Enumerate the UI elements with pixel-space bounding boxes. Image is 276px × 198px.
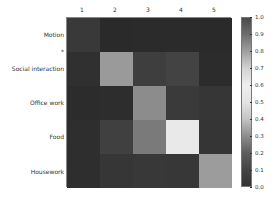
- x-tick-1: 1: [72, 6, 92, 13]
- heatmap-cell: [67, 52, 100, 86]
- heatmap-cell: [100, 52, 133, 86]
- heatmap-cell: [100, 154, 133, 188]
- colorbar-tick-mark: [250, 119, 252, 120]
- colorbar-tick-mark: [250, 187, 252, 188]
- heatmap-cell: [166, 86, 199, 120]
- heatmap-cell: [67, 120, 100, 154]
- colorbar-tick-label: 0.3: [255, 133, 264, 139]
- x-tick-2: 2: [105, 6, 125, 13]
- heatmap-cell: [166, 18, 199, 52]
- colorbar-tick-mark: [250, 170, 252, 171]
- colorbar-tick-label: 0.1: [255, 167, 264, 173]
- heatmap-chart: 1 2 3 4 5 Motion * Social interaction Of…: [0, 0, 276, 198]
- colorbar-tick-mark: [250, 17, 252, 18]
- colorbar-tick-label: 1.0: [255, 14, 264, 20]
- colorbar-tick-label: 0.6: [255, 82, 264, 88]
- heatmap-cell: [199, 86, 232, 120]
- heatmap-cell: [133, 86, 166, 120]
- colorbar-tick-mark: [250, 68, 252, 69]
- heatmap-cell: [67, 18, 100, 52]
- colorbar-tick-label: 0.7: [255, 65, 264, 71]
- y-label-motion: Motion: [44, 31, 64, 38]
- heatmap-cell: [133, 154, 166, 188]
- colorbar-tick-mark: [250, 136, 252, 137]
- colorbar-tick-mark: [250, 51, 252, 52]
- x-tick-3: 3: [138, 6, 158, 13]
- heatmap-cell: [133, 120, 166, 154]
- colorbar-tick-mark: [250, 102, 252, 103]
- colorbar-tick-label: 0.2: [255, 150, 264, 156]
- heatmap-cell: [100, 18, 133, 52]
- y-label-social-interaction: Social interaction: [12, 65, 64, 72]
- colorbar-tick-mark: [250, 153, 252, 154]
- x-tick-4: 4: [171, 6, 191, 13]
- heatmap-cell: [67, 86, 100, 120]
- colorbar-tick-mark: [250, 34, 252, 35]
- heatmap-cell: [133, 18, 166, 52]
- heatmap-grid: [66, 17, 231, 187]
- colorbar-tick-mark: [250, 85, 252, 86]
- y-label-food: Food: [50, 133, 64, 140]
- y-label-housework: Housework: [31, 168, 64, 175]
- heatmap-cell: [166, 52, 199, 86]
- colorbar-tick-label: 0.4: [255, 116, 264, 122]
- x-tick-5: 5: [204, 6, 224, 13]
- heatmap-cell: [166, 154, 199, 188]
- heatmap-cell: [199, 18, 232, 52]
- colorbar-tick-label: 0.8: [255, 48, 264, 54]
- heatmap-cell: [100, 120, 133, 154]
- y-label-asterisk: *: [61, 48, 64, 55]
- heatmap-cell: [199, 52, 232, 86]
- heatmap-cell: [100, 86, 133, 120]
- heatmap-cell: [199, 120, 232, 154]
- colorbar-tick-label: 0.9: [255, 31, 264, 37]
- y-label-office-work: Office work: [30, 99, 64, 106]
- heatmap-cell: [67, 154, 100, 188]
- colorbar-tick-label: 0.0: [255, 184, 264, 190]
- heatmap-cell: [166, 120, 199, 154]
- heatmap-cell: [199, 154, 232, 188]
- heatmap-cell: [133, 52, 166, 86]
- colorbar-tick-label: 0.5: [255, 99, 264, 105]
